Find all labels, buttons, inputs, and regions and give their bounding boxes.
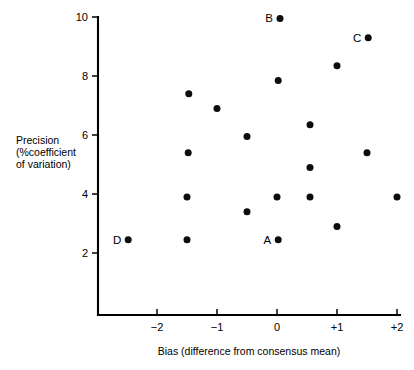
data-point [274, 193, 281, 200]
scatter-plot-figure: 246810 −2−10+1+2 BCDA Precision (%coeffi… [0, 0, 414, 370]
data-point [185, 90, 192, 97]
data-point [365, 34, 372, 41]
y-tick-label-8: 8 [82, 70, 88, 82]
data-point [184, 236, 191, 243]
data-point [185, 149, 192, 156]
data-point [275, 236, 282, 243]
y-axis-tick-labels: 246810 [76, 11, 88, 259]
data-point [275, 77, 282, 84]
data-point [214, 105, 221, 112]
data-point [334, 62, 341, 69]
data-point [394, 193, 401, 200]
x-tick-label-2: +2 [391, 321, 404, 333]
data-point [307, 193, 314, 200]
data-point [125, 236, 132, 243]
y-axis-title-line-2: (%coefficient [16, 146, 76, 158]
data-point [334, 223, 341, 230]
y-tick-label-6: 6 [82, 129, 88, 141]
x-axis-tick-labels: −2−10+1+2 [151, 321, 404, 333]
data-point [307, 121, 314, 128]
data-point [364, 149, 371, 156]
axis-lines [98, 17, 400, 315]
x-tick-label--2: −2 [151, 321, 164, 333]
y-tick-label-4: 4 [82, 188, 88, 200]
y-axis-title: Precision (%coefficient of variation) [16, 134, 76, 170]
data-point [244, 208, 251, 215]
x-tick-label--1: −1 [211, 321, 224, 333]
data-point [184, 193, 191, 200]
y-tick-label-2: 2 [82, 247, 88, 259]
x-tick-label-0: 0 [274, 321, 280, 333]
x-axis-title: Bias (difference from consensus mean) [158, 345, 340, 357]
y-tick-label-10: 10 [76, 11, 88, 23]
x-tick-label-1: +1 [331, 321, 344, 333]
data-point-label-C: C [353, 32, 361, 44]
data-point-labels: BCDA [113, 12, 361, 245]
y-axis-title-line-3: of variation) [16, 158, 71, 170]
data-point [307, 164, 314, 171]
data-point [244, 133, 251, 140]
data-point-label-A: A [264, 234, 272, 246]
data-point-series [125, 15, 401, 243]
data-point-label-B: B [265, 12, 273, 24]
data-point [277, 15, 284, 22]
data-point-label-D: D [113, 234, 121, 246]
y-axis-title-line-1: Precision [16, 134, 59, 146]
plot-canvas: 246810 −2−10+1+2 BCDA Precision (%coeffi… [0, 0, 414, 370]
